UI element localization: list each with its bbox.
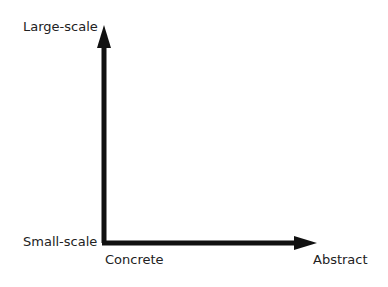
label-small-scale: Small-scale [23, 234, 97, 250]
y-axis-arrowhead-icon [97, 25, 111, 48]
x-axis-arrowhead-icon [294, 236, 317, 250]
label-abstract: Abstract [313, 252, 368, 268]
label-concrete: Concrete [105, 252, 164, 268]
label-large-scale: Large-scale [23, 19, 98, 35]
